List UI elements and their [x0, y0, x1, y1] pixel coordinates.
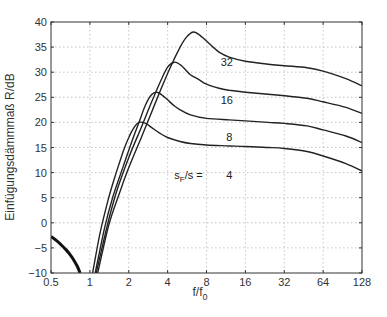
y-tick-label: 20: [35, 116, 47, 128]
x-tick-label: 16: [239, 276, 251, 288]
y-tick-label: 25: [35, 91, 47, 103]
y-tick-label: 35: [35, 41, 47, 53]
curve-label: 8: [226, 131, 232, 143]
curve-label: sF/s =: [174, 169, 202, 184]
y-tick-label: 10: [35, 167, 47, 179]
curve-label: 16: [221, 94, 233, 106]
curve-label: 4: [226, 169, 232, 181]
curve-label: 32: [221, 56, 233, 68]
insertion-loss-chart: 0.51248163264128 −10−50510152025303540 3…: [0, 0, 387, 317]
curve-series: [95, 92, 362, 273]
x-tick-label: 1: [87, 276, 93, 288]
y-axis-label: Einfügungsdämmmaß R/dB: [3, 73, 17, 220]
y-tick-label: −5: [34, 242, 47, 254]
x-tick-label: 128: [353, 276, 371, 288]
y-tick-label: 5: [41, 192, 47, 204]
x-tick-label: 64: [317, 276, 329, 288]
y-tick-label: 30: [35, 66, 47, 78]
x-tick-label: 4: [165, 276, 171, 288]
y-tick-label: −10: [28, 267, 47, 279]
grid-lines: [51, 22, 362, 273]
y-tick-label: 15: [35, 142, 47, 154]
y-tick-label: 40: [35, 16, 47, 28]
x-tick-label: 32: [278, 276, 290, 288]
curve-series: [51, 236, 80, 273]
y-tick-label: 0: [41, 217, 47, 229]
x-tick-labels: 0.51248163264128: [43, 276, 371, 288]
x-tick-label: 8: [203, 276, 209, 288]
x-tick-label: 2: [126, 276, 132, 288]
y-tick-labels: −10−50510152025303540: [28, 16, 47, 279]
data-curves: [51, 32, 362, 273]
